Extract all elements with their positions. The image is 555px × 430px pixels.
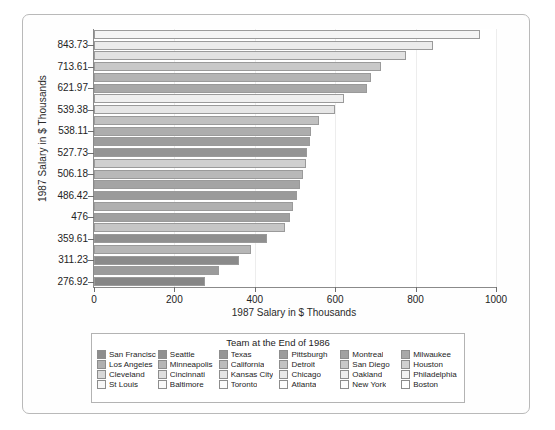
- bar: [94, 223, 285, 232]
- legend-swatch: [340, 370, 349, 379]
- legend-swatch: [401, 350, 410, 359]
- y-axis-label: 476: [22, 211, 88, 222]
- legend-item[interactable]: California: [219, 360, 278, 369]
- legend-item[interactable]: Houston: [401, 360, 460, 369]
- legend-swatch: [279, 370, 288, 379]
- legend-swatch: [401, 380, 410, 389]
- bar: [94, 62, 381, 71]
- y-axis-label: 276.92: [22, 276, 88, 287]
- legend-item[interactable]: Atlanta: [279, 380, 338, 389]
- y-axis-label: 506.18: [22, 168, 88, 179]
- legend-item[interactable]: Baltimore: [158, 380, 217, 389]
- x-axis-label: 1000: [485, 294, 507, 305]
- legend-item[interactable]: Detroit: [279, 360, 338, 369]
- x-axis-title: 1987 Salary in $ Thousands: [93, 307, 495, 318]
- bar: [94, 127, 311, 136]
- legend-swatch: [401, 370, 410, 379]
- x-axis-label: 200: [166, 294, 183, 305]
- bar: [94, 170, 303, 179]
- legend-swatch: [340, 350, 349, 359]
- legend-label: Texas: [231, 350, 252, 359]
- bar: [94, 51, 406, 60]
- y-axis-label: 539.38: [22, 104, 88, 115]
- legend-label: Cleveland: [109, 370, 145, 379]
- legend-label: Atlanta: [291, 380, 316, 389]
- legend-item[interactable]: New York: [340, 380, 399, 389]
- x-axis-tick: [416, 287, 417, 292]
- legend-item[interactable]: Texas: [219, 350, 278, 359]
- legend-label: Seattle: [170, 350, 195, 359]
- legend-item[interactable]: Chicago: [279, 370, 338, 379]
- x-axis-label: 400: [246, 294, 263, 305]
- bar: [94, 234, 267, 243]
- bar: [94, 266, 219, 275]
- bar: [94, 30, 480, 39]
- legend-item[interactable]: Montreal: [340, 350, 399, 359]
- bar: [94, 148, 307, 157]
- legend-label: Kansas City: [231, 370, 274, 379]
- legend-swatch: [97, 380, 106, 389]
- gridline: [496, 29, 497, 287]
- y-axis-label-wrap: 506.18: [16, 168, 88, 178]
- y-axis-label: 713.61: [22, 61, 88, 72]
- legend-swatch: [219, 350, 228, 359]
- x-axis-tick: [174, 287, 175, 292]
- legend-swatch: [158, 380, 167, 389]
- legend-item[interactable]: Milwaukee: [401, 350, 460, 359]
- legend-item[interactable]: Philadelphia: [401, 370, 460, 379]
- y-axis-tick: [88, 110, 94, 111]
- y-axis-tick: [88, 67, 94, 68]
- y-axis-tick: [88, 174, 94, 175]
- y-axis-label-wrap: 539.38: [16, 104, 88, 114]
- y-axis-label: 311.23: [22, 254, 88, 265]
- legend: Team at the End of 1986 San FranciscoSea…: [91, 333, 465, 403]
- bar: [94, 277, 205, 286]
- legend-swatch: [279, 350, 288, 359]
- y-axis-label: 538.11: [22, 125, 88, 136]
- x-axis-tick: [94, 287, 95, 292]
- y-axis-tick: [88, 196, 94, 197]
- legend-label: Philadelphia: [413, 370, 457, 379]
- legend-label: Oakland: [352, 370, 382, 379]
- bar: [94, 105, 335, 114]
- y-axis-label-wrap: 276.92: [16, 276, 88, 286]
- legend-swatch: [340, 380, 349, 389]
- y-axis-label-wrap: 486.42: [16, 190, 88, 200]
- y-axis-label-wrap: 476: [16, 211, 88, 221]
- legend-swatch: [279, 380, 288, 389]
- x-axis-label: 800: [407, 294, 424, 305]
- legend-item[interactable]: Toronto: [219, 380, 278, 389]
- legend-item[interactable]: Minneapolis: [158, 360, 217, 369]
- legend-item[interactable]: Pittsburgh: [279, 350, 338, 359]
- y-axis-label: 621.97: [22, 82, 88, 93]
- x-axis-tick: [496, 287, 497, 292]
- legend-label: Los Angeles: [109, 360, 153, 369]
- legend-item[interactable]: Oakland: [340, 370, 399, 379]
- y-axis-label-wrap: 843.73: [16, 39, 88, 49]
- legend-swatch: [219, 380, 228, 389]
- y-axis-tick: [88, 282, 94, 283]
- legend-swatch: [97, 370, 106, 379]
- bar: [94, 180, 300, 189]
- legend-label: Baltimore: [170, 380, 204, 389]
- legend-item[interactable]: Cleveland: [97, 370, 156, 379]
- legend-item[interactable]: Seattle: [158, 350, 217, 359]
- legend-item[interactable]: San Francisco: [97, 350, 156, 359]
- bar: [94, 84, 367, 93]
- y-axis-tick: [88, 217, 94, 218]
- y-axis-label-wrap: 311.23: [16, 254, 88, 264]
- y-axis-tick: [88, 131, 94, 132]
- legend-item[interactable]: Cincinnati: [158, 370, 217, 379]
- legend-label: Toronto: [231, 380, 258, 389]
- legend-item[interactable]: Los Angeles: [97, 360, 156, 369]
- legend-swatch: [340, 360, 349, 369]
- legend-swatch: [219, 360, 228, 369]
- legend-item[interactable]: St Louis: [97, 380, 156, 389]
- y-axis-label-wrap: 538.11: [16, 125, 88, 135]
- y-axis-label-wrap: 621.97: [16, 82, 88, 92]
- legend-label: Cincinnati: [170, 370, 205, 379]
- legend-item[interactable]: San Diego: [340, 360, 399, 369]
- chart-frame: 1987 Salary in $ Thousands 843.73713.616…: [22, 14, 530, 414]
- legend-item[interactable]: Boston: [401, 380, 460, 389]
- legend-item[interactable]: Kansas City: [219, 370, 278, 379]
